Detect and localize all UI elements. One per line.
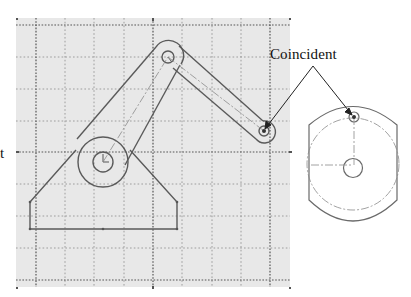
cut-off-text: t <box>0 145 4 162</box>
mechanism-sketch-diagram <box>0 0 411 297</box>
coupler-coincident-point <box>262 129 266 133</box>
wheel-part <box>309 107 397 222</box>
wheel-centerlines <box>307 117 399 210</box>
wheel-hub <box>344 159 363 178</box>
coincident-callout-label: Coincident <box>270 46 337 63</box>
